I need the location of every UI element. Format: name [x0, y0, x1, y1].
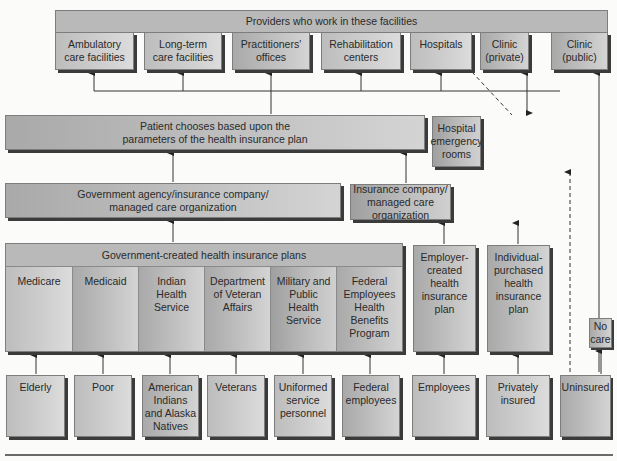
patient-choice-box: Patient chooses based upon the parameter…: [5, 115, 425, 150]
plan-veteran-affairs: Department of Veteran Affairs: [205, 267, 271, 351]
population-uninsured: Uninsured: [560, 375, 611, 437]
facility-ambulatory: Ambulatory care facilities: [55, 32, 134, 70]
hospital-emergency-rooms: Hospital emergency rooms: [432, 116, 481, 167]
bottom-rule: [5, 454, 613, 456]
facility-hospitals: Hospitals: [410, 32, 472, 70]
population-american-indians: American Indians and Alaska Natives: [142, 375, 199, 437]
population-employees: Employees: [412, 375, 476, 437]
population-uniformed-service: Uniformed service personnel: [274, 375, 332, 437]
plan-medicaid: Medicaid: [73, 267, 139, 351]
providers-banner: Providers who work in these facilities: [55, 10, 608, 33]
gov-plans-group: Government-created health insurance plan…: [5, 243, 403, 352]
population-privately-insured: Privately insured: [486, 375, 550, 437]
facility-rehabilitation: Rehabilitation centers: [321, 32, 401, 70]
gov-plans-columns: Medicare Medicaid Indian Health Service …: [6, 267, 402, 351]
facility-clinic-public: Clinic (public): [551, 32, 608, 70]
insurance-company-box: Insurance company/ managed care organiza…: [350, 184, 451, 220]
gov-plans-title: Government-created health insurance plan…: [6, 244, 402, 267]
population-veterans: Veterans: [207, 375, 265, 437]
plan-employer-created: Employer- created health insurance plan: [413, 245, 476, 352]
population-elderly: Elderly: [6, 375, 65, 437]
no-care-box: No care: [589, 318, 612, 348]
plan-fehbp: Federal Employees Health Benefits Progra…: [337, 267, 402, 351]
population-federal-employees: Federal employees: [342, 375, 400, 437]
plan-military-public-health: Military and Public Health Service: [271, 267, 337, 351]
facility-long-term: Long-term care facilities: [144, 32, 222, 70]
plan-individual-purchased: Individual- purchased health insurance p…: [487, 245, 550, 352]
providers-title: Providers who work in these facilities: [246, 15, 418, 28]
plan-indian-health-service: Indian Health Service: [139, 267, 205, 351]
gov-agency-box: Government agency/insurance company/ man…: [5, 183, 341, 218]
plan-medicare: Medicare: [6, 267, 73, 351]
population-poor: Poor: [74, 375, 132, 437]
facility-clinic-private: Clinic (private): [480, 32, 529, 70]
facility-practitioners-offices: Practitioners' offices: [232, 32, 310, 70]
